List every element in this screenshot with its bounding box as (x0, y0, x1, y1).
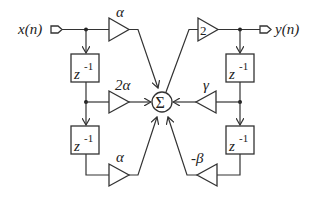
gain-label-fb1: -β (191, 150, 204, 166)
gain-triangle-ff1 (109, 91, 129, 113)
output-label: y(n) (273, 21, 299, 38)
gain-triangle-fb1 (197, 164, 217, 186)
summer-symbol: Σ (156, 94, 165, 111)
gain-label-ff0: α (116, 4, 125, 20)
delay-z: z (228, 138, 235, 154)
gain-label-fb0: γ (203, 77, 210, 93)
delay-exp: -1 (239, 60, 248, 72)
delay-z: z (228, 66, 235, 82)
gain-label-ff1: 2α (115, 77, 132, 93)
input-label: x(n) (17, 21, 42, 38)
gain-triangle-ff2 (109, 164, 129, 186)
input-port-icon (51, 26, 62, 33)
output-port-icon (260, 26, 271, 33)
delay-exp: -1 (239, 132, 248, 144)
delay-exp: -1 (84, 60, 93, 72)
delay-exp: -1 (84, 132, 93, 144)
gain-label-out: 2 (200, 23, 207, 38)
delay-z: z (73, 66, 80, 82)
gain-label-ff2: α (116, 149, 125, 165)
gain-triangle-ff0 (109, 18, 129, 41)
signal-flow-diagram: x(n) α z -1 2α z -1 α Σ 2 y(n) z -1 γ z … (0, 0, 316, 197)
delay-z: z (73, 138, 80, 154)
gain-triangle-fb0 (196, 91, 216, 113)
